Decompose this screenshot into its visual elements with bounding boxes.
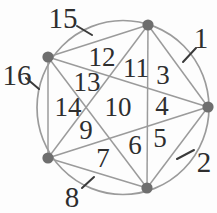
region-label-15: 15 [49, 2, 78, 34]
vertex-top-dot [142, 19, 153, 30]
region-label-7: 7 [96, 143, 110, 173]
figure-canvas: 12345678910111213141516 [0, 0, 217, 213]
vertex-lower-left-dot [42, 152, 53, 163]
region-label-2: 2 [197, 146, 212, 178]
region-label-10: 10 [105, 92, 132, 122]
vertex-right-dot [202, 101, 213, 112]
region-label-6: 6 [128, 130, 142, 160]
chord-line-top-bottom [147, 25, 148, 188]
leader-tick-region-2 [177, 150, 194, 159]
region-label-11: 11 [123, 53, 149, 83]
region-label-5: 5 [153, 123, 167, 153]
region-label-14: 14 [55, 92, 83, 122]
region-label-16: 16 [3, 59, 32, 91]
region-label-3: 3 [156, 60, 170, 90]
region-label-1: 1 [194, 22, 209, 54]
vertex-upper-left-dot [42, 51, 53, 62]
region-labels-group: 12345678910111213141516 [3, 2, 212, 213]
region-label-8: 8 [65, 181, 80, 213]
circle-division-diagram: 12345678910111213141516 [0, 0, 217, 213]
region-label-4: 4 [155, 91, 169, 121]
vertex-bottom-dot [141, 182, 152, 193]
